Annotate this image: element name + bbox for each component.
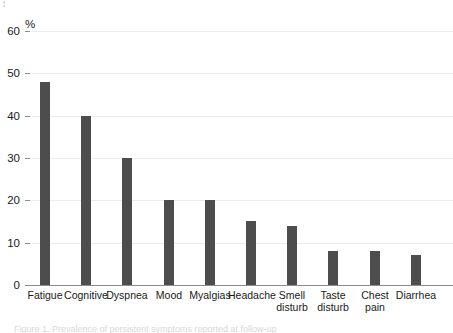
x-axis-tick-label: Fatigue [22,290,68,302]
x-axis-tick-label: Headache [228,290,274,302]
y-axis-tick-label: 10 [0,237,20,249]
x-axis-tick-label: Mood [146,290,192,302]
bar [287,226,297,285]
y-axis-tick-mark [25,31,30,32]
x-axis-tick-label: Myalgias [187,290,233,302]
chart-figure: ¦ % 0102030405060 FatigueCognitiveDyspne… [0,0,453,333]
bar [370,251,380,285]
y-axis-tick-label: 30 [0,152,20,164]
gridline [30,31,453,32]
x-axis-line [30,285,453,286]
y-axis-tick-mark [25,158,30,159]
x-axis-tick-label: Cognitive [63,290,109,302]
y-axis-unit-label: % [25,18,35,30]
bar [164,200,174,285]
y-axis-tick-label: 0 [0,279,20,291]
y-axis-tick-label: 40 [0,110,20,122]
y-axis-tick-label: 60 [0,25,20,37]
bar [205,200,215,285]
y-axis-tick-mark [25,200,30,201]
bottom-cut-caption: Figure 1. Prevalence of persistent sympt… [14,325,344,333]
gridline [30,200,453,201]
y-axis-tick-label: 20 [0,194,20,206]
y-axis-tick-mark [25,243,30,244]
x-axis-tick-label: Smell disturb [269,290,315,313]
y-axis-tick-mark [25,73,30,74]
plot-area: % 0102030405060 FatigueCognitiveDyspneaM… [0,0,453,333]
gridline [30,116,453,117]
bar [328,251,338,285]
x-axis-tick-label: Dyspnea [104,290,150,302]
bar [81,116,91,285]
bar [122,158,132,285]
bar [411,255,421,285]
x-axis-tick-label: Taste disturb [310,290,356,313]
bar [246,221,256,285]
bar [40,82,50,285]
y-axis-tick-mark [25,116,30,117]
gridline [30,243,453,244]
x-axis-tick-label: Diarrhea [393,290,439,302]
x-axis-tick-label: Chest pain [352,290,398,313]
gridline [30,73,453,74]
y-axis-tick-label: 50 [0,67,20,79]
gridline [30,158,453,159]
